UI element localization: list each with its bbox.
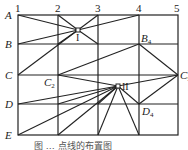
row-label-E: E [4, 129, 12, 141]
point-label-B4: B4 [141, 32, 152, 46]
point-label-C5: C5 [180, 69, 188, 83]
point-label-I: I [76, 32, 79, 43]
row-label-D: D [4, 98, 13, 110]
point-label-C2: C2 [44, 76, 55, 90]
column-label-5: 5 [174, 2, 180, 14]
grid-lines [18, 15, 178, 135]
grid-diagram: 1 2 3 4 5 A B C D E I II B4 C2 C5 D4 图 …… [0, 0, 188, 150]
column-label-1: 1 [15, 2, 21, 14]
figure-caption: 图 … 点线的布置图 [34, 140, 112, 150]
column-label-3: 3 [95, 2, 101, 14]
row-label-C: C [5, 69, 13, 81]
connector-lines-I [18, 15, 139, 75]
column-label-4: 4 [136, 2, 142, 14]
point-II-marker [116, 84, 120, 88]
row-label-B: B [5, 38, 12, 50]
point-label-D4: D4 [141, 105, 154, 119]
column-label-2: 2 [55, 2, 61, 14]
point-label-II: II [122, 81, 129, 92]
connector-lines-B4 [58, 44, 178, 75]
row-label-A: A [4, 9, 12, 21]
